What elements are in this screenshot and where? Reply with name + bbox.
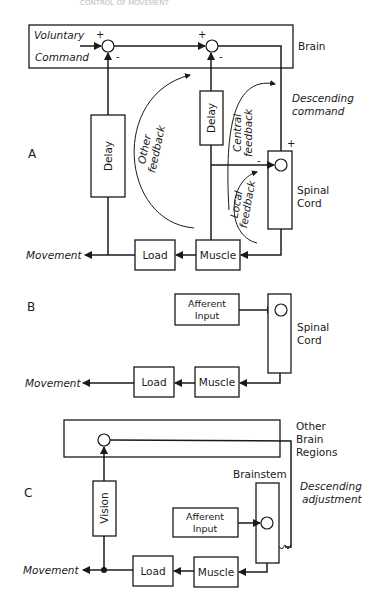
command-label: Command: [35, 51, 89, 63]
plus-sign: +: [198, 29, 206, 40]
vision-label: Vision: [98, 492, 110, 523]
minus-sign: -: [116, 51, 120, 62]
muscle-label: Muscle: [199, 376, 235, 388]
other-brain-regions-box: [64, 420, 280, 457]
afferent-label-2: Input: [195, 310, 220, 321]
movement-label: Movement: [26, 249, 83, 261]
brain-comparator-icon: [98, 434, 110, 446]
panel-label-b: B: [27, 300, 35, 314]
other-brain-label-2: Brain: [296, 433, 324, 445]
load-label: Load: [140, 565, 165, 577]
load-label: Load: [141, 376, 166, 388]
delay-large-label: Delay: [102, 141, 114, 171]
spinal-label-1: Spinal: [297, 321, 329, 333]
comparator-2-icon: [206, 40, 218, 52]
afferent-label-1: Afferent: [186, 511, 224, 522]
running-title: CONTROL OF MOVEMENT: [80, 0, 170, 7]
plus-sign: +: [287, 138, 295, 149]
minus-sign: -: [219, 51, 223, 62]
central-feedback-label-2: feedback: [242, 108, 254, 157]
delay-small-label: Delay: [205, 103, 217, 133]
motor-control-diagram: CONTROL OF MOVEMENT A Voluntary Command …: [0, 0, 382, 602]
descending-adjustment-label-2: adjustment: [302, 493, 363, 505]
brainstem-comparator-icon: [261, 517, 273, 529]
load-label: Load: [142, 249, 167, 261]
plus-sign: +: [96, 29, 104, 40]
panel-a: A Voluntary Command Brain + - + - Descen…: [26, 25, 354, 270]
afferent-label-2: Input: [193, 523, 218, 534]
spinal-label-2: Cord: [297, 334, 322, 346]
spinal-label-1: Spinal: [297, 184, 329, 196]
spinal-comparator-icon: [275, 304, 287, 316]
other-brain-label-1: Other: [296, 420, 326, 432]
movement-label: Movement: [23, 564, 80, 576]
panel-b: B Afferent Input Spinal Cord Muscle Load…: [25, 294, 329, 397]
descending-adjustment-label-1: Descending: [300, 480, 362, 492]
comparator-1-icon: [102, 40, 114, 52]
brainstem-label: Brainstem: [233, 468, 287, 480]
muscle-label: Muscle: [198, 566, 234, 578]
command-desc-label: command: [292, 105, 345, 117]
other-brain-label-3: Regions: [296, 446, 337, 458]
movement-label: Movement: [25, 377, 82, 389]
panel-label-a: A: [28, 147, 37, 161]
junction-dot-icon: [101, 567, 107, 573]
panel-label-c: C: [24, 486, 32, 500]
spinal-comparator-icon: [275, 159, 287, 171]
panel-c: C Other Brain Regions Brainstem Descendi…: [23, 420, 363, 587]
brain-label: Brain: [298, 40, 326, 52]
descending-label: Descending: [292, 92, 354, 104]
muscle-label: Muscle: [200, 249, 236, 261]
afferent-label-1: Afferent: [188, 298, 226, 309]
spinal-label-2: Cord: [297, 197, 322, 209]
voluntary-label: Voluntary: [34, 29, 85, 41]
